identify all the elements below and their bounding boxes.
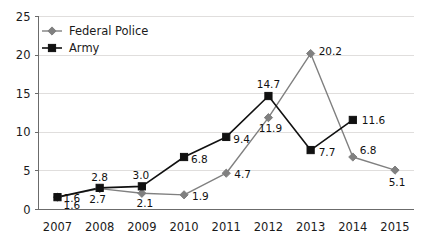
data-label-federal-police-2015: 5.1 <box>389 176 406 188</box>
x-tick-label-2009: 2009 <box>127 220 156 234</box>
marker-army <box>138 183 145 190</box>
data-label-army-2014: 11.6 <box>362 114 386 126</box>
legend-marker-diamond-icon <box>48 27 56 35</box>
x-tick-label-2012: 2012 <box>254 220 283 234</box>
data-label-federal-police-2011: 4.7 <box>234 168 251 180</box>
x-tick-label-2007: 2007 <box>43 220 72 234</box>
x-tick-label-2013: 2013 <box>296 220 325 234</box>
x-tick-label-2014: 2014 <box>338 220 367 234</box>
data-label-federal-police-2009: 2.1 <box>137 197 154 209</box>
x-tick-label-2008: 2008 <box>85 220 114 234</box>
y-tick-label: 25 <box>16 10 31 24</box>
marker-army <box>349 116 356 123</box>
marker-army <box>54 194 61 201</box>
legend-label-army: Army <box>69 41 100 55</box>
data-labels: 1.62.72.11.94.711.920.26.85.11.62.83.06.… <box>63 45 405 212</box>
marker-federal-police <box>391 166 399 174</box>
data-label-federal-police-2010: 1.9 <box>192 190 209 202</box>
marker-army <box>223 133 230 140</box>
data-label-army-2012: 14.7 <box>257 78 280 90</box>
y-tick-label: 10 <box>16 125 31 139</box>
data-label-army-2009: 3.0 <box>133 169 150 181</box>
chart-legend: Federal PoliceArmy <box>42 24 148 55</box>
data-label-army-2010: 6.8 <box>191 153 208 165</box>
data-label-federal-police-2012: 11.9 <box>259 122 282 134</box>
data-label-army-2007: 1.6 <box>63 199 80 211</box>
x-axis: 200720082009201020112012201320142015 <box>39 210 415 234</box>
marker-army <box>307 146 314 153</box>
x-tick-label-2011: 2011 <box>212 220 241 234</box>
y-tick-label: 0 <box>23 203 30 217</box>
y-tick-label: 15 <box>16 87 31 101</box>
legend-marker-square-icon <box>48 44 55 51</box>
y-tick-label: 5 <box>23 164 30 178</box>
marker-army <box>265 92 272 99</box>
data-label-federal-police-2008: 2.7 <box>89 193 106 205</box>
data-label-federal-police-2013: 20.2 <box>319 45 342 57</box>
chart-canvas: 0510152025 20072008200920102011201220132… <box>0 0 423 245</box>
marker-federal-police <box>180 191 188 199</box>
y-tick-label: 20 <box>16 48 31 62</box>
marker-federal-police <box>307 49 315 57</box>
legend-label-federal-police: Federal Police <box>69 24 148 38</box>
x-tick-label-2015: 2015 <box>380 220 409 234</box>
marker-army <box>96 184 103 191</box>
line-chart: 0510152025 20072008200920102011201220132… <box>0 0 423 245</box>
marker-federal-police <box>349 153 357 161</box>
marker-army <box>180 153 187 160</box>
data-label-army-2008: 2.8 <box>91 171 108 183</box>
data-label-army-2013: 7.7 <box>319 146 336 158</box>
y-axis: 0510152025 <box>16 10 39 217</box>
data-label-federal-police-2014: 6.8 <box>360 144 377 156</box>
x-tick-label-2010: 2010 <box>169 220 198 234</box>
gridlines <box>39 17 415 171</box>
data-label-army-2011: 9.4 <box>233 133 250 145</box>
